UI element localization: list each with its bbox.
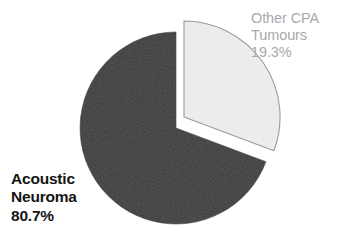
slice-label-other-cpa-tumours: Other CPA Tumours 19.3%: [251, 10, 319, 61]
slice-label-acoustic-line1: Acoustic: [11, 170, 77, 188]
slice-label-acoustic-line2: Neuroma: [11, 188, 77, 206]
slice-label-acoustic-percent: 80.7%: [11, 207, 77, 225]
pie-chart-figure: Acoustic Neuroma 80.7% Other CPA Tumours…: [0, 0, 343, 239]
slice-label-other-percent: 19.3%: [251, 44, 319, 61]
slice-label-other-line2: Tumours: [251, 27, 319, 44]
slice-label-other-line1: Other CPA: [251, 10, 319, 27]
slice-label-acoustic-neuroma: Acoustic Neuroma 80.7%: [11, 170, 77, 225]
